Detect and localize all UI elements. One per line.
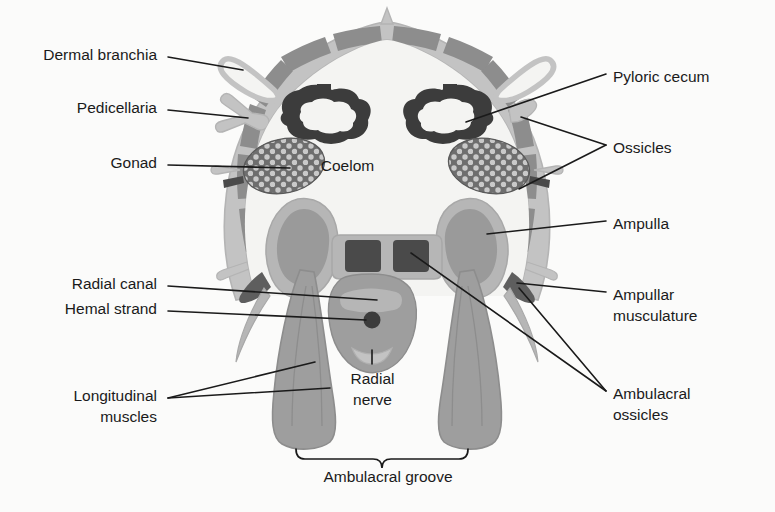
label-ambulacral-groove: Ambulacral groove <box>266 466 510 487</box>
label-radial-nerve-line2: nerve <box>320 389 425 410</box>
radial-canal-lumen <box>340 289 402 313</box>
label-ampulla: Ampulla <box>613 213 669 234</box>
label-pyloric-cecum: Pyloric cecum <box>613 66 709 87</box>
label-ambulacral-ossicles-line2: ossicles <box>613 404 668 425</box>
label-longitudinal-muscles-line2: muscles <box>0 406 157 427</box>
ambulacral-ossicle-left <box>345 240 381 272</box>
label-longitudinal-muscles-line1: Longitudinal <box>0 385 157 406</box>
label-gonad: Gonad <box>0 152 157 173</box>
label-hemal-strand: Hemal strand <box>0 298 157 319</box>
pyloric-duct-left <box>317 84 331 92</box>
label-dermal-branchia: Dermal branchia <box>0 44 157 65</box>
label-ampullar-musculature-line1: Ampullar <box>613 284 674 305</box>
label-coelom: Coelom <box>305 155 390 176</box>
label-pedicellaria: Pedicellaria <box>0 97 157 118</box>
label-ambulacral-ossicles-line1: Ambulacral <box>613 383 691 404</box>
label-ossicles: Ossicles <box>613 137 672 158</box>
pyloric-duct-right <box>443 84 457 92</box>
ambulacral-ossicle-right <box>393 240 429 272</box>
ambulacral-ossicles-group <box>332 235 442 279</box>
label-ampullar-musculature-line2: musculature <box>613 305 697 326</box>
figure-canvas: Dermal branchia Pedicellaria Gonad Radia… <box>0 0 775 512</box>
label-radial-nerve-line1: Radial <box>320 368 425 389</box>
label-radial-canal: Radial canal <box>0 273 157 294</box>
